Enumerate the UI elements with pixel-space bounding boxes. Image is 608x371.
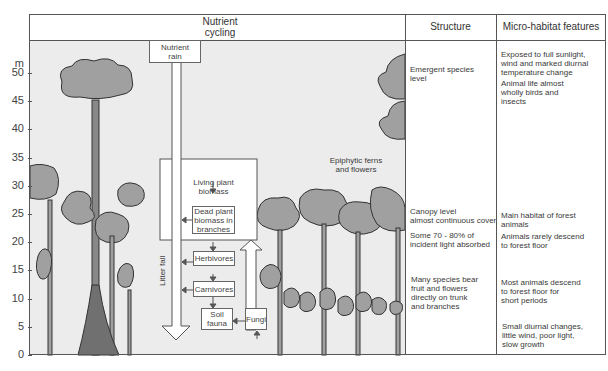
structure-understory-line1: Many species bear [411,275,478,284]
micro-canopy-2-line2: to forest floor [501,241,584,250]
structure-emergent-line1: Emergent species [410,65,474,74]
structure-light: Some 70 - 80% of incident light absorbed [410,231,490,249]
micro-emergent-2-line2: wholly birds and [501,88,564,97]
dead-plant-line2: biomass in [194,216,233,225]
micro-emergent-2: Animal life almost wholly birds and inse… [501,79,564,106]
micro-emergent-1-line2: wind and marked diurnal [501,59,588,68]
dead-plant-line1: Dead plant [194,207,233,216]
epiphytes-label: Epiphytic ferns and flowers [327,156,385,174]
micro-canopy-2-line1: Animals rarely descend [501,232,584,241]
micro-floor-line3: slow growth [502,340,583,349]
micro-emergent-2-line3: insects [501,97,564,106]
epiphytes-line2: and flowers [327,165,385,174]
micro-canopy-1: Main habitat of forest animals [501,211,576,229]
structure-understory: Many species bear fruit and flowers dire… [411,275,478,311]
nutrient-rain-line2: rain [161,52,189,61]
structure-understory-line4: and branches [411,302,478,311]
structure-emergent-line2: level [410,74,474,83]
micro-floor-line2: little wind, poor light, [502,331,583,340]
living-plant-biomass-line2: biomass [186,187,241,196]
structure-canopy-line1: Canopy level [410,207,496,216]
nutrient-rain-line1: Nutrient [161,43,189,52]
micro-canopy-1-line1: Main habitat of forest [501,211,576,220]
structure-understory-line3: directly on trunk [411,293,478,302]
micro-understory-line3: short periods [501,296,581,305]
litter-fall-label: Litter fall [158,256,167,286]
soil-fauna-box: Soilfauna [201,308,233,330]
micro-understory-line1: Most animals descend [501,278,581,287]
structure-canopy-line2: almost continuous cover [410,216,496,225]
structure-understory-line2: fruit and flowers [411,284,478,293]
micro-emergent-1: Exposed to full sunlight, wind and marke… [501,50,588,77]
micro-emergent-1-line3: temperature change [501,68,588,77]
dead-plant-biomass-box: Dead plantbiomass inbranches [192,206,235,234]
micro-canopy-1-line2: animals [501,220,576,229]
micro-understory: Most animals descend to forest floor for… [501,278,581,305]
herbivores-box: Herbivores [193,251,235,266]
living-plant-biomass-label: Living plant biomass [186,178,241,196]
micro-emergent-1-line1: Exposed to full sunlight, [501,50,588,59]
soil-fauna-line2: fauna [207,319,227,328]
structure-light-line1: Some 70 - 80% of [410,231,490,240]
nutrient-rain-box: Nutrientrain [149,40,201,63]
micro-floor-line1: Small diurnal changes, [502,322,583,331]
epiphytes-line1: Epiphytic ferns [327,156,385,165]
micro-floor: Small diurnal changes, little wind, poor… [502,322,583,349]
structure-canopy: Canopy level almost continuous cover [410,207,496,225]
structure-emergent: Emergent species level [410,65,474,83]
micro-emergent-2-line1: Animal life almost [501,79,564,88]
fungi-box: Fungi [245,308,267,330]
structure-light-line2: incident light absorbed [410,240,490,249]
living-plant-biomass-line1: Living plant [186,178,241,187]
soil-fauna-line1: Soil [207,310,227,319]
micro-understory-line2: to forest floor for [501,287,581,296]
dead-plant-line3: branches [194,225,233,234]
carnivores-box: Carnivores [193,281,235,297]
micro-canopy-2: Animals rarely descend to forest floor [501,232,584,250]
